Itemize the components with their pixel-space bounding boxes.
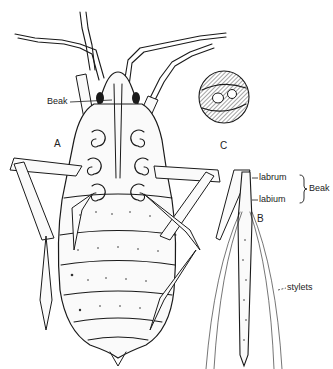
label-labium: labium bbox=[259, 195, 286, 204]
panel-label-b: B bbox=[257, 214, 264, 224]
label-labrum: labrum bbox=[259, 173, 287, 182]
beak-detail-b bbox=[206, 170, 307, 369]
insect-a bbox=[10, 12, 226, 366]
insect-illustration bbox=[0, 0, 333, 369]
beak-bracket bbox=[300, 175, 307, 203]
label-stylets: stylets bbox=[287, 283, 313, 292]
eye-left bbox=[96, 92, 104, 104]
label-beak-b: Beak bbox=[309, 184, 330, 193]
eye-right bbox=[132, 92, 140, 104]
panel-label-a: A bbox=[54, 139, 61, 149]
label-beak-a: Beak bbox=[47, 97, 68, 106]
stylet-cross-section bbox=[199, 71, 249, 123]
panel-label-c: C bbox=[220, 141, 227, 151]
